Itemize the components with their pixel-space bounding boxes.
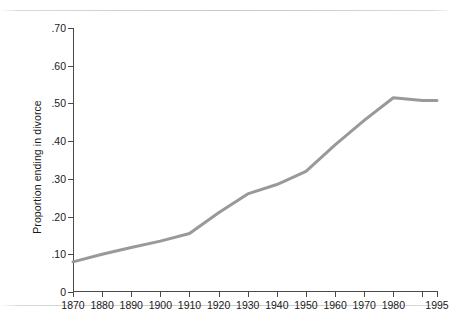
x-tick-label: 1950	[294, 299, 317, 311]
y-tick-label: 0	[60, 286, 66, 298]
x-tick-label: 1960	[323, 299, 346, 311]
y-tick-label: .50	[51, 97, 66, 109]
y-tick-label: .10	[51, 248, 66, 260]
x-tick-mark	[437, 291, 438, 297]
y-tick-label: .60	[51, 60, 66, 72]
x-tick-label: 1940	[265, 299, 288, 311]
data-series-line	[73, 28, 437, 292]
x-tick-label: 1870	[61, 299, 84, 311]
y-axis-title: Proportion ending in divorce	[30, 76, 44, 258]
y-tick-label: .30	[51, 173, 66, 185]
x-tick-label: 1910	[178, 299, 201, 311]
y-tick-label: .40	[51, 135, 66, 147]
x-tick-label: 1890	[120, 299, 143, 311]
y-axis-title-text: Proportion ending in divorce	[31, 100, 43, 234]
x-tick-label: 1980	[382, 299, 405, 311]
line-chart-figure: Proportion ending in divorce 0.10.20.30.…	[0, 14, 451, 304]
x-tick-label: 1995	[425, 299, 448, 311]
x-tick-label: 1900	[149, 299, 172, 311]
y-tick-label: .70	[51, 22, 66, 34]
x-tick-label: 1880	[90, 299, 113, 311]
x-tick-label: 1920	[207, 299, 230, 311]
plot-area: 0.10.20.30.40.50.60.70 18701880189019001…	[73, 28, 437, 292]
page-rule-top	[0, 10, 451, 11]
x-tick-1995: 1995	[437, 291, 438, 292]
x-tick-label: 1930	[236, 299, 259, 311]
y-tick-label: .20	[51, 211, 66, 223]
x-tick-label: 1970	[353, 299, 376, 311]
